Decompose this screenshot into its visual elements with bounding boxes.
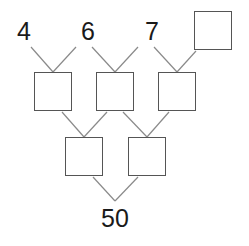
result-number: 50: [97, 206, 133, 231]
lower-answer-box-2[interactable]: [128, 137, 166, 176]
top-number-1: 4: [9, 19, 39, 44]
top-answer-box[interactable]: [194, 11, 232, 50]
middle-answer-box-2[interactable]: [96, 72, 134, 111]
middle-answer-box-1[interactable]: [34, 72, 72, 111]
number-pyramid-diagram: 4 6 7 50: [0, 0, 249, 246]
lower-answer-box-1[interactable]: [65, 137, 103, 176]
top-number-2: 6: [73, 19, 103, 44]
middle-answer-box-3[interactable]: [158, 72, 196, 111]
top-number-3: 7: [137, 19, 167, 44]
